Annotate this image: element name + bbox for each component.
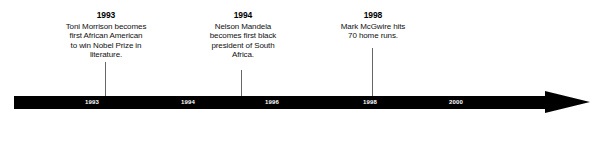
event-connector-1998: [372, 48, 373, 98]
event-connector-1993: [105, 62, 106, 98]
axis-tick-1994: 1994: [181, 98, 195, 107]
event-connector-1994: [241, 70, 242, 98]
event-description: Toni Morrison becomes first African Amer…: [41, 22, 171, 60]
timeline-event-1994: 1994 Nelson Mandela becomes first black …: [197, 10, 289, 60]
timeline-event-1993: 1993 Toni Morrison becomes first African…: [41, 10, 171, 60]
event-year-label: 1993: [41, 10, 171, 21]
axis-tick-1993: 1993: [85, 98, 99, 107]
axis-tick-1996: 1996: [265, 98, 279, 107]
timeline-event-1998: 1998 Mark McGwire hits 70 home runs.: [326, 10, 420, 41]
event-description: Nelson Mandela becomes first black presi…: [197, 22, 289, 60]
event-year-label: 1998: [326, 10, 420, 21]
axis-tick-1998: 1998: [363, 98, 377, 107]
timeline-figure: 1993 Toni Morrison becomes first African…: [0, 0, 601, 145]
axis-tick-2000: 2000: [449, 98, 463, 107]
timeline-arrow-icon: [545, 91, 590, 113]
event-description: Mark McGwire hits 70 home runs.: [326, 22, 420, 41]
event-year-label: 1994: [197, 10, 289, 21]
